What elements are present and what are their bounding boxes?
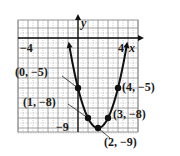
y-axis-label: y (81, 17, 86, 29)
x-axis-label: x (129, 42, 135, 54)
point-label-1-neg8: (1, −8) (23, 96, 56, 108)
point-label-0-neg5: (0, −5) (15, 66, 48, 78)
tick-label-neg9: −9 (56, 121, 69, 133)
point-label-3-neg8: (3, −8) (113, 108, 146, 120)
tick-label-neg4: −4 (20, 42, 33, 54)
point-label-2-neg9: (2, −9) (104, 136, 137, 148)
tick-label-4: 4 (118, 42, 124, 54)
point-label-4-neg5: (4, −5) (122, 81, 155, 93)
